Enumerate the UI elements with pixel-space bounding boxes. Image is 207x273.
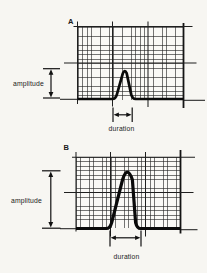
figure-overlay bbox=[0, 0, 207, 273]
duration-label-b: duration bbox=[109, 253, 144, 260]
panel-b-waveform-trace bbox=[76, 172, 181, 228]
duration-arrow-a bbox=[113, 108, 132, 123]
figure-root: A amplitude duration B amplitude duratio… bbox=[0, 0, 207, 273]
amplitude-label-a: amplitude bbox=[13, 80, 44, 87]
amplitude-label-b: amplitude bbox=[11, 197, 42, 204]
duration-arrow-b bbox=[110, 231, 141, 247]
duration-label-a: duration bbox=[104, 125, 139, 132]
amplitude-arrow-a bbox=[43, 69, 60, 98]
panel-b-label: B bbox=[64, 144, 69, 152]
panel-a-label: A bbox=[68, 18, 73, 26]
amplitude-arrow-b bbox=[42, 171, 61, 228]
panel-a-waveform-trace bbox=[78, 71, 184, 99]
panel-b-major-gridlines bbox=[60, 150, 198, 237]
